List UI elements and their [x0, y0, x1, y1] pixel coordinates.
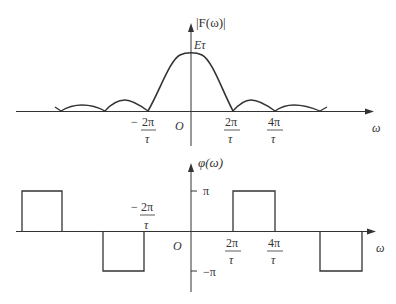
pos-2pi-den: τ	[228, 132, 233, 146]
phase-pulse-down-right	[320, 231, 362, 271]
phase-ylabel: φ(ω)	[198, 155, 223, 170]
side-lobe-left-1	[105, 100, 148, 111]
phase-neg-2pi-den: τ	[144, 218, 149, 232]
neg-2pi-num: 2π	[142, 115, 154, 129]
bottom-y-arrow-icon	[188, 163, 194, 172]
phase-plot	[16, 163, 376, 292]
neg-sign: −	[131, 115, 138, 129]
phase-neg-2pi-num: 2π	[141, 200, 153, 214]
phase-labels: φ(ω) π −π O ω − 2π τ 2π τ 4π τ	[131, 155, 384, 279]
phase-neg-sign: −	[131, 200, 138, 214]
bottom-x-arrow-icon	[367, 229, 376, 235]
side-lobe-left-tail	[55, 107, 61, 111]
pos-4pi-num: 4π	[268, 115, 280, 129]
top-y-arrow-icon	[188, 23, 194, 32]
side-lobe-right-1	[233, 100, 275, 111]
pos-4pi-den: τ	[271, 132, 276, 146]
phase-pulse-down-left	[103, 231, 144, 271]
side-lobe-right-2	[275, 105, 320, 111]
phase-pulse-up-left	[22, 191, 62, 231]
magnitude-ylabel: |F(ω)|	[196, 15, 226, 30]
spectrum-figure: |F(ω)| Eτ O ω − 2π τ 2π τ 4π τ φ(	[0, 0, 396, 304]
neg-pi-label: −π	[203, 265, 216, 279]
magnitude-labels: |F(ω)| Eτ O ω − 2π τ 2π τ 4π τ	[131, 15, 380, 146]
side-lobe-right-tail	[320, 107, 327, 111]
side-lobe-left-2	[61, 105, 105, 111]
phase-pos-2pi-den: τ	[229, 253, 234, 267]
top-omega-label: ω	[372, 121, 380, 135]
top-x-arrow-icon	[365, 109, 374, 115]
phase-pos-2pi-num: 2π	[226, 236, 238, 250]
peak-label: Eτ	[193, 38, 206, 52]
neg-2pi-den: τ	[145, 132, 150, 146]
top-origin-label: O	[175, 119, 184, 133]
bottom-omega-label: ω	[376, 241, 384, 255]
phase-pos-4pi-den: τ	[271, 253, 276, 267]
pi-label: π	[203, 184, 209, 198]
phase-pulse-up-right	[233, 191, 275, 231]
pos-2pi-num: 2π	[225, 115, 237, 129]
phase-pos-4pi-num: 4π	[268, 236, 280, 250]
bottom-origin-label: O	[173, 239, 182, 253]
